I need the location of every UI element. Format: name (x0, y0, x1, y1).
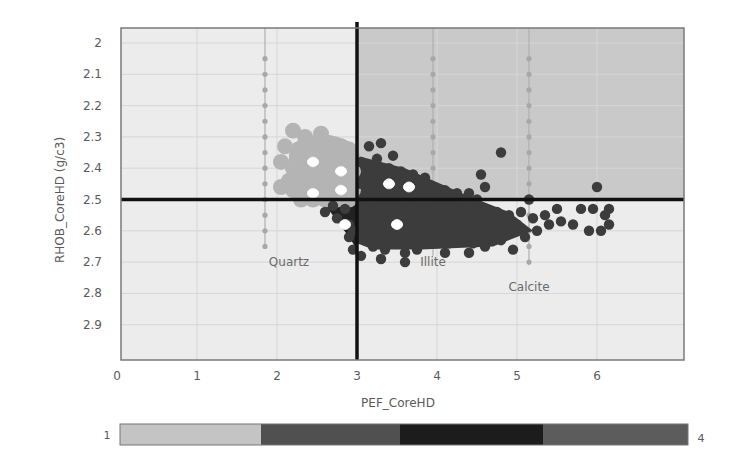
data-point (408, 169, 418, 179)
data-point (340, 204, 350, 214)
data-point (588, 204, 598, 214)
data-point (544, 219, 554, 229)
data-point (344, 232, 354, 242)
data-point (592, 182, 602, 192)
data-point (408, 201, 418, 211)
data-point (313, 126, 329, 142)
color-bar-min-label: 1 (104, 429, 111, 442)
y-tick-label: 2.5 (83, 193, 102, 207)
data-point (368, 179, 378, 189)
mineral-marker (430, 103, 435, 108)
data-point (285, 123, 301, 139)
data-point (400, 257, 410, 267)
data-point (516, 207, 526, 217)
mineral-marker (526, 119, 531, 124)
data-point (432, 235, 442, 245)
data-point (496, 147, 506, 157)
y-tick-label: 2.8 (83, 286, 102, 300)
mineral-marker (430, 166, 435, 171)
mineral-marker (262, 150, 267, 155)
data-point (376, 169, 386, 179)
data-point (364, 141, 374, 151)
y-tick-label: 2.4 (83, 161, 102, 175)
data-point (540, 210, 550, 220)
mineral-marker (526, 103, 531, 108)
data-point (528, 213, 538, 223)
data-point (360, 226, 370, 236)
data-point (376, 216, 386, 226)
data-point (396, 166, 406, 176)
data-point (504, 210, 514, 220)
data-point (476, 169, 486, 179)
y-tick-label: 2.6 (83, 224, 102, 238)
y-tick-label: 2.2 (83, 99, 102, 113)
mineral-marker (526, 56, 531, 61)
data-point (484, 232, 494, 242)
x-axis-title: PEF_CoreHD (361, 396, 435, 410)
data-point (584, 226, 594, 236)
mineral-marker (430, 56, 435, 61)
crossplot-chart: 0123456 22.12.22.32.42.52.62.72.82.9 Qua… (0, 0, 730, 474)
data-point (408, 235, 418, 245)
data-point (372, 154, 382, 164)
x-tick-label: 1 (193, 369, 201, 383)
highlight-point (383, 179, 395, 188)
data-point (376, 138, 386, 148)
mineral-label-quartz: Quartz (269, 255, 309, 269)
data-point (384, 232, 394, 242)
x-axis-ticks: 0123456 (113, 369, 601, 383)
mineral-marker (430, 134, 435, 139)
data-point (396, 229, 406, 239)
x-tick-label: 5 (513, 369, 521, 383)
x-tick-label: 2 (273, 369, 281, 383)
data-point (492, 207, 502, 217)
data-point (456, 235, 466, 245)
mineral-marker (526, 166, 531, 171)
data-point (372, 204, 382, 214)
y-axis-title: RHOB_CoreHD (g/c3) (53, 137, 67, 263)
data-point (428, 182, 438, 192)
x-tick-label: 4 (433, 369, 441, 383)
highlight-point (339, 220, 351, 229)
data-point (488, 219, 498, 229)
data-point (388, 150, 398, 160)
data-point (412, 216, 422, 226)
data-point (384, 201, 394, 211)
y-tick-label: 2.3 (83, 130, 102, 144)
data-point (532, 226, 542, 236)
color-bar-segment-1 (120, 424, 261, 445)
data-point (468, 207, 478, 217)
data-point (273, 179, 289, 195)
mineral-marker (430, 119, 435, 124)
data-point (360, 201, 370, 211)
y-tick-label: 2.9 (83, 318, 102, 332)
y-tick-label: 2 (94, 36, 102, 50)
data-point (480, 204, 490, 214)
mineral-marker (526, 87, 531, 92)
data-point (364, 166, 374, 176)
y-tick-label: 2.7 (83, 255, 102, 269)
highlight-point (335, 186, 347, 195)
data-point (604, 204, 614, 214)
color-bar-segment-4 (543, 424, 688, 445)
data-point (432, 201, 442, 211)
mineral-label-calcite: Calcite (508, 280, 549, 294)
data-point (420, 172, 430, 182)
data-point (396, 204, 406, 214)
data-point (520, 232, 530, 242)
data-point (496, 235, 506, 245)
mineral-marker (262, 181, 267, 186)
data-point (460, 222, 470, 232)
mineral-marker (262, 103, 267, 108)
data-point (604, 219, 614, 229)
data-point (273, 154, 289, 170)
data-point (576, 204, 586, 214)
data-point (320, 207, 330, 217)
data-point (400, 248, 410, 258)
data-point (556, 216, 566, 226)
data-point (468, 238, 478, 248)
mineral-marker (526, 150, 531, 155)
mineral-marker (262, 72, 267, 77)
data-point (416, 185, 426, 195)
mineral-marker (526, 244, 531, 249)
